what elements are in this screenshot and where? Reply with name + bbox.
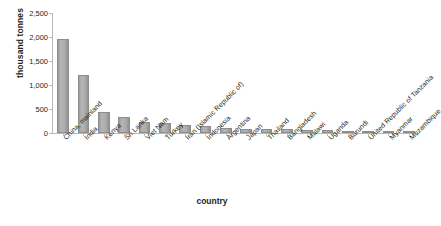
y-axis-tick-label: 2,000 [4, 33, 48, 42]
y-axis-tick-mark [49, 13, 52, 14]
bar-slot [256, 13, 276, 133]
plot-area [52, 13, 419, 134]
y-axis-tick-label: 500 [4, 105, 48, 114]
bar-slot [94, 13, 114, 133]
y-axis-tick-mark [49, 61, 52, 62]
bar-slot [175, 13, 195, 133]
x-axis-title: country [0, 196, 424, 206]
bar-slot [358, 13, 378, 133]
bar [57, 39, 69, 133]
y-axis-tick-mark [49, 133, 52, 134]
y-axis-tick-labels: 05001,0001,5002,0002,500 [0, 13, 48, 133]
y-axis-tick-mark [49, 85, 52, 86]
bar-slot [277, 13, 297, 133]
y-axis-tick-mark [49, 37, 52, 38]
y-axis-tick-label: 0 [4, 129, 48, 138]
bar-series [53, 13, 419, 133]
bar-slot [53, 13, 73, 133]
y-axis-tick-mark [49, 109, 52, 110]
y-axis-tick-label: 2,500 [4, 9, 48, 18]
y-axis-tick-label: 1,000 [4, 81, 48, 90]
bar-slot [317, 13, 337, 133]
bar-slot [114, 13, 134, 133]
bar-slot [338, 13, 358, 133]
y-axis-tick-label: 1,500 [4, 57, 48, 66]
